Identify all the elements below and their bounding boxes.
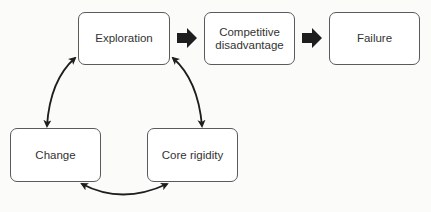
block-arrow-disadvantage-to-failure [302,28,322,48]
node-label: Failure [357,32,392,45]
node-label: Competitive disadvantage [215,26,283,52]
curve-arrow-change-core-rigidity [82,184,167,195]
curve-arrow-exploration-core-rigidity [173,58,202,126]
node-label: Change [35,149,75,162]
curve-arrow-exploration-change [47,58,75,126]
node-failure: Failure [329,12,420,65]
node-exploration: Exploration [78,12,170,65]
block-arrow-exploration-to-disadvantage [177,28,197,48]
node-change: Change [10,128,101,182]
node-label: Core rigidity [162,149,223,162]
node-label: Exploration [95,32,153,45]
node-competitive-disadvantage: Competitive disadvantage [204,12,295,65]
node-core-rigidity: Core rigidity [147,128,238,182]
